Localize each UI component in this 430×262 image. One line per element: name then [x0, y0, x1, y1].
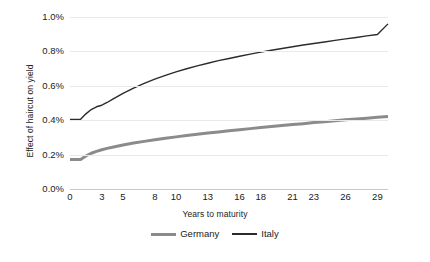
x-axis-tick-label: 5: [110, 190, 136, 204]
legend-item-germany[interactable]: Germany: [151, 228, 219, 240]
series-line-italy: [70, 24, 388, 119]
y-axis-tick-labels: 0.0%0.2%0.4%0.6%0.8%1.0%: [28, 0, 64, 262]
chart-legend: GermanyItaly: [0, 228, 430, 240]
legend-item-italy[interactable]: Italy: [232, 228, 278, 240]
x-axis-tick-label: 29: [364, 190, 390, 204]
y-axis-tick-label: 0.6%: [30, 81, 64, 91]
y-axis-tick-label: 0.4%: [30, 115, 64, 125]
series-lines: [70, 17, 388, 189]
gridline: [70, 51, 388, 52]
x-axis-tick-label: 26: [333, 190, 359, 204]
gridline: [70, 17, 388, 18]
gridline: [70, 155, 388, 156]
legend-swatch-italy-icon: [232, 233, 257, 234]
x-axis-tick-label: 0: [57, 190, 83, 204]
gridline: [70, 120, 388, 121]
y-axis-tick-label: 0.2%: [30, 150, 64, 160]
y-axis-tick-label: 1.0%: [30, 12, 64, 22]
gridline: [70, 86, 388, 87]
x-axis-tick-label: 10: [163, 190, 189, 204]
series-line-germany: [70, 116, 388, 159]
x-axis-tick-label: 23: [301, 190, 327, 204]
legend-label: Germany: [180, 228, 219, 240]
x-axis-tick-label: 18: [248, 190, 274, 204]
chart-figure: Effect of haircut on yield 0.0%0.2%0.4%0…: [0, 0, 430, 262]
x-axis-tick-label: 13: [195, 190, 221, 204]
legend-swatch-germany-icon: [151, 233, 176, 236]
legend-label: Italy: [261, 228, 278, 240]
plot-area: [70, 17, 388, 189]
x-axis-tick-labels: 03581013161821232629: [0, 190, 430, 206]
x-axis-title: Years to maturity: [0, 209, 430, 219]
y-axis-tick-label: 0.8%: [30, 46, 64, 56]
